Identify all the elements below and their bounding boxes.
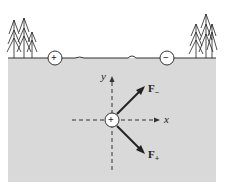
trees-right-icon [189,14,217,58]
positive-surface-charge-label: + [51,53,57,63]
ground-surface-line [8,56,216,58]
test-charge-label: + [108,115,114,125]
negative-surface-charge-label: − [163,53,169,63]
trees-left-icon [7,18,37,58]
x-axis-label: x [164,114,169,125]
force-plus-label: F+ [148,149,159,160]
diagram-canvas [0,0,226,187]
force-minus-label: F− [148,83,159,94]
y-axis-label: y [101,71,106,82]
